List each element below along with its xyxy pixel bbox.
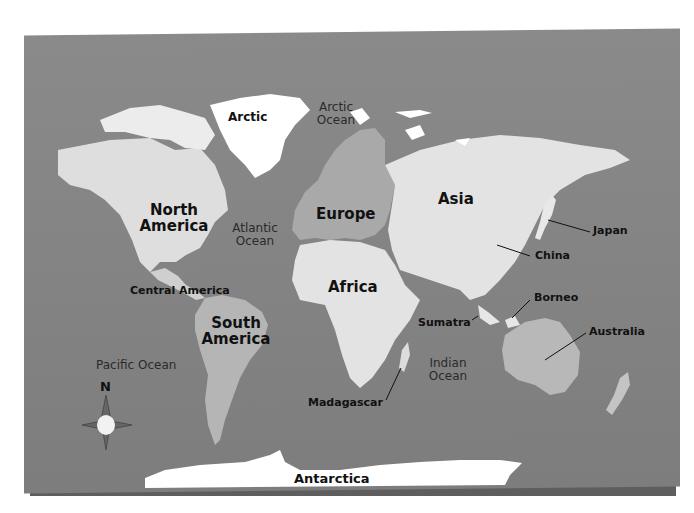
label-australia: Australia [589,326,645,338]
label-asia: Asia [438,192,474,208]
label-europe: Europe [316,207,376,223]
new-zealand-shape [606,372,630,415]
label-borneo: Borneo [534,292,578,304]
asia-shape [385,135,630,300]
label-atlantic-ocean: Atlantic Ocean [226,222,284,247]
label-china: China [535,250,570,262]
compass-rose [82,395,132,450]
label-arctic: Arctic [228,111,267,124]
label-south-america: South America [196,316,276,348]
greenland-shape [210,94,310,178]
label-pacific-ocean: Pacific Ocean [96,359,176,372]
label-japan: Japan [593,225,628,237]
label-sumatra: Sumatra [418,317,471,329]
label-madagascar: Madagascar [308,397,383,409]
label-arctic-ocean: Arctic Ocean [308,101,364,126]
australia-shape [502,318,580,395]
world-map [0,0,694,513]
label-central-america: Central America [130,285,230,297]
europe-shape [292,128,395,240]
label-indian-ocean: Indian Ocean [424,357,472,382]
label-antarctica: Antarctica [294,472,370,486]
compass-north-label: N [100,380,111,394]
madagascar-shape [399,342,410,372]
label-north-america: North America [134,203,214,235]
label-africa: Africa [328,280,378,296]
